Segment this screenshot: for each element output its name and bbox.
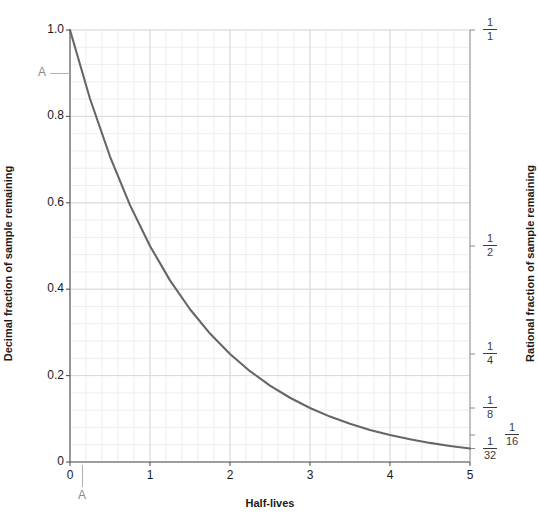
rational-fraction-label: 12 [478,233,502,258]
fraction-denominator: 4 [478,354,502,366]
fraction-numerator: 1 [478,233,502,245]
x-tick-label: 0 [55,468,85,482]
y-tick-label: 0 [30,454,64,468]
grid-minor-lines [70,30,470,462]
y-tick-label: 0.8 [30,108,64,122]
plot-area [0,0,538,527]
x-tick-label: 2 [215,468,245,482]
x-tick-label: 3 [295,468,325,482]
tick-marks [66,30,475,466]
rational-fraction-label: 116 [500,422,524,447]
decay-chart-figure: Decimal fraction of sample remaining Rat… [0,0,538,527]
fraction-numerator: 1 [500,422,524,434]
fraction-denominator: 8 [478,408,502,420]
decay-curve-line [70,30,470,449]
rational-fraction-label: 132 [478,436,502,461]
y-tick-label: 0.6 [30,195,64,209]
annotation-leader-line [50,73,70,74]
fraction-denominator: 32 [478,449,502,461]
rational-fraction-label: 14 [478,341,502,366]
annotation-label-a: A [78,488,86,502]
annotation-label-a: A [38,65,46,79]
fraction-numerator: 1 [478,341,502,353]
x-tick-label: 5 [455,468,485,482]
annotation-leader-line [82,465,83,487]
y-tick-label: 1.0 [30,22,64,36]
x-tick-label: 4 [375,468,405,482]
fraction-denominator: 16 [500,435,524,447]
y-tick-label: 0.2 [30,368,64,382]
x-tick-label: 1 [135,468,165,482]
fraction-denominator: 2 [478,246,502,258]
fraction-numerator: 1 [478,436,502,448]
rational-fraction-label: 11 [478,17,502,42]
fraction-numerator: 1 [478,17,502,29]
fraction-numerator: 1 [478,395,502,407]
fraction-denominator: 1 [478,30,502,42]
rational-fraction-label: 18 [478,395,502,420]
y-tick-label: 0.4 [30,281,64,295]
axis-lines [70,30,470,462]
grid-major-lines [70,30,470,462]
